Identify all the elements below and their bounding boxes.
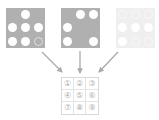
dot-cell-5: [19, 21, 32, 34]
number-cell-9[interactable]: ⑨: [86, 102, 98, 114]
dot-cell-7: [61, 35, 74, 48]
number-cell-2[interactable]: ②: [74, 78, 86, 90]
number-cell-6[interactable]: ⑥: [86, 90, 98, 102]
dot-cell-4: [6, 21, 19, 34]
dot-cell-1: [61, 8, 74, 21]
number-cell-label: ④: [64, 92, 71, 100]
dot-cell-2: [19, 8, 32, 21]
arrow-right-to-grid: [99, 52, 118, 72]
number-cell-label: ②: [76, 80, 83, 88]
dot-cell-7: [116, 35, 129, 48]
dot-cell-6: [87, 21, 100, 34]
dice-dot-grid-middle: [61, 8, 100, 48]
dot-cell-4: [61, 21, 74, 34]
number-grid[interactable]: ① ② ③ ④ ⑤ ⑥ ⑦ ⑧ ⑨: [61, 77, 99, 115]
number-cell-label: ⑦: [64, 104, 71, 112]
dot-cell-5: [74, 21, 87, 34]
dice-panel-row: [0, 0, 159, 50]
dot-cell-3: [32, 8, 45, 21]
dot-cell-7: [6, 35, 19, 48]
dot-cell-3: [142, 8, 155, 21]
number-cell-label: ⑥: [88, 92, 95, 100]
dot-cell-8: [74, 35, 87, 48]
number-cell-label: ⑧: [76, 104, 83, 112]
dice-dot-grid-right: [116, 8, 155, 48]
arrow-group: [0, 48, 159, 76]
dot-cell-4: [116, 21, 129, 34]
dot-cell-5: [129, 21, 142, 34]
number-grid-container: ① ② ③ ④ ⑤ ⑥ ⑦ ⑧ ⑨: [61, 77, 99, 115]
dot-cell-2: [129, 8, 142, 21]
number-cell-1[interactable]: ①: [62, 78, 74, 90]
dot-cell-9: [87, 35, 100, 48]
dice-dot-grid-left: [6, 8, 45, 48]
dot-cell-9: [32, 35, 45, 48]
dice-panel-middle[interactable]: [61, 8, 100, 48]
dice-panel-right[interactable]: [116, 8, 155, 48]
number-cell-5[interactable]: ⑤: [74, 90, 86, 102]
number-cell-label: ①: [64, 80, 71, 88]
number-cell-label: ⑨: [88, 104, 95, 112]
figure-root: ① ② ③ ④ ⑤ ⑥ ⑦ ⑧ ⑨: [0, 0, 159, 120]
dot-cell-6: [32, 21, 45, 34]
dot-cell-1: [116, 8, 129, 21]
dot-cell-3: [87, 8, 100, 21]
number-cell-7[interactable]: ⑦: [62, 102, 74, 114]
number-cell-label: ⑤: [76, 92, 83, 100]
dot-cell-8: [19, 35, 32, 48]
dice-panel-left[interactable]: [6, 8, 45, 48]
arrow-left-to-grid: [42, 52, 62, 72]
number-cell-label: ③: [88, 80, 95, 88]
dot-cell-9: [142, 35, 155, 48]
number-cell-3[interactable]: ③: [86, 78, 98, 90]
number-cell-8[interactable]: ⑧: [74, 102, 86, 114]
dot-cell-8: [129, 35, 142, 48]
number-cell-4[interactable]: ④: [62, 90, 74, 102]
dot-cell-2: [74, 8, 87, 21]
dot-cell-1: [6, 8, 19, 21]
dot-cell-6: [142, 21, 155, 34]
